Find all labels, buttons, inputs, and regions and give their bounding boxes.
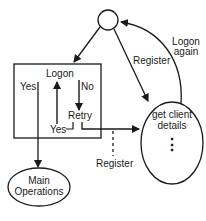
edge-retry-yes-bracket bbox=[66, 122, 73, 129]
yes-retry-label: Yes bbox=[50, 124, 66, 135]
edge-retry-to-get-client bbox=[82, 122, 139, 129]
get-client-line1: get client bbox=[145, 109, 199, 120]
main-ops-line2: Operations bbox=[10, 186, 68, 197]
register-label-top: Register bbox=[133, 55, 170, 66]
logon-title: Logon bbox=[46, 68, 74, 79]
yes-left-label: Yes bbox=[20, 81, 36, 92]
no-label: No bbox=[81, 81, 94, 92]
start-node bbox=[98, 10, 118, 30]
register-label-bottom: Register bbox=[96, 158, 133, 169]
edge-start-to-logon bbox=[74, 27, 100, 62]
ellipsis-dots-icon: ⋮ bbox=[160, 130, 184, 160]
main-ops-line1: Main bbox=[10, 175, 68, 186]
logon-again-label-2: again bbox=[170, 46, 202, 57]
retry-label: Retry bbox=[68, 110, 92, 121]
